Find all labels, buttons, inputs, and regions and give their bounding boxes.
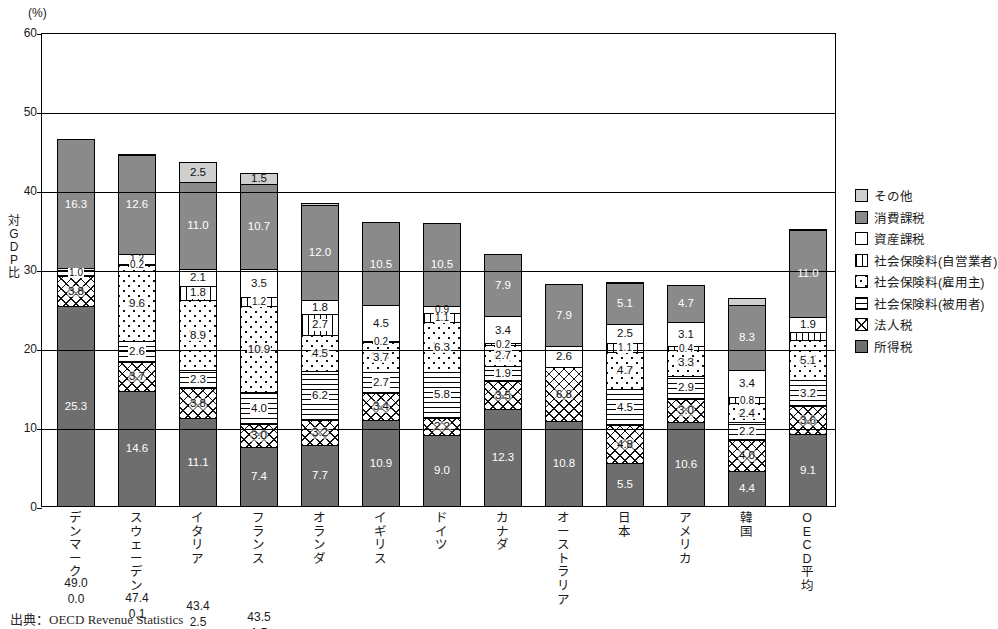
bar-segment-prop: 2.5 [607,324,643,344]
stacked-bar[interactable]: 8.33.40.82.42.24.04.4 [728,298,766,506]
bar-segment-prop: 1.9 [790,317,826,332]
bar-segment-value-label: 1.8 [311,302,329,314]
x-axis-category-char: 国 [736,526,756,540]
legend-item-corp[interactable]: 法人税 [855,314,995,336]
x-axis-category-char: ン [248,539,268,553]
x-axis-category-label: アメリカ [675,512,695,566]
x-axis-category-char: メ [675,526,695,540]
legend-item-income[interactable]: 所得税 [855,336,995,358]
bar-segment-income: 4.4 [729,471,765,506]
stacked-bar[interactable]: 4.73.10.43.32.93.010.6 [667,285,705,506]
bar-segment-corp: 2.2 [424,418,460,435]
stacked-bar[interactable]: 2.511.02.11.88.92.33.811.1 [179,162,217,506]
bar-segment-value-label: 3.1 [677,329,695,341]
x-axis-category-char: オ [309,512,329,526]
x-axis-category-char: イ [187,512,207,526]
stacked-bar[interactable]: 7.92.66.810.8 [545,284,583,506]
x-axis-category-char: ス [370,553,390,567]
legend-swatch-icon [855,211,868,224]
stacked-bar[interactable]: 10.54.50.23.72.73.410.9 [362,222,400,506]
y-axis-tick-label: 40 [11,184,37,198]
bar-segment-value-label: 3.8 [189,398,207,410]
x-axis-category-char: ダ [309,553,329,567]
x-axis-category-char: 日 [614,512,634,526]
bar-segment-value-label: 3.0 [250,430,268,442]
bar-segment-employee: 2.3 [180,370,216,388]
legend-item-other[interactable]: その他 [855,185,995,207]
bar-segment-selfemp [790,332,826,340]
bar-segment-consum: 7.9 [546,284,582,346]
x-axis-category-label: デンマーク [65,512,85,580]
bar-segment-other: 1.5 [241,173,277,185]
bar-segment-value-label: 4.4 [738,483,756,495]
bar-segment-value-label: 11.0 [796,268,820,280]
bar-segment-value-label: 9.0 [433,465,451,477]
x-axis-category-label: フランス [248,512,268,566]
x-axis-category-char: タ [187,526,207,540]
bar-segment-value-label: 11.1 [186,457,210,469]
bar-segment-value-label: 0.8 [739,396,755,406]
x-axis-category-char: ラ [248,526,268,540]
legend-item-selfemp[interactable]: 社会保険料(自営業者) [855,250,995,272]
stacked-bar[interactable]: 1.510.73.51.210.94.03.07.4 [240,173,278,506]
bar-segment-value-label: 10.5 [430,259,454,271]
bar-segment-value-label: 10.8 [552,458,576,470]
bar-segment-value-label: 8.9 [189,330,207,342]
legend-item-prop[interactable]: 資産課税 [855,228,995,250]
bar-segment-income: 5.5 [607,463,643,506]
x-axis-category-char: リ [553,580,573,594]
bar-segment-value-label: 4.5 [616,402,634,414]
x-axis-category-char: ウ [126,526,146,540]
x-axis-category-char: ア [553,594,573,608]
stacked-bar[interactable]: 12.01.82.74.56.23.27.7 [301,203,339,506]
x-axis-category-char: ラ [309,526,329,540]
x-axis-category-char: 平 [797,566,817,580]
bar-segment-value-label: 0.2 [373,337,389,347]
bar-segment-value-label: 8.3 [738,332,756,344]
x-axis-category-char: ラ [553,566,573,580]
bar-segment-other: 2.5 [180,162,216,182]
source-note: 出典：OECD Revenue Statistics [10,609,183,628]
legend-item-consum[interactable]: 消費課税 [855,207,995,229]
x-axis-category-char: C [797,539,817,553]
stacked-bar[interactable]: 12.61.20.29.62.63.714.6 [118,154,156,506]
x-axis-category-char: ー [553,526,573,540]
legend-item-employee[interactable]: 社会保険料(被用者) [855,293,995,315]
legend-swatch-icon [855,189,868,202]
legend-item-label: 社会保険料(雇用主) [874,272,984,291]
bar-segment-consum: 5.1 [607,283,643,323]
legend-item-label: 資産課税 [874,229,925,248]
stacked-bar[interactable]: 5.12.51.14.74.54.85.5 [606,282,644,506]
bar-segment-employee: 5.8 [424,372,460,418]
bar-segment-value-label: 7.7 [311,470,329,482]
y-axis-unit-label: (%) [28,6,47,20]
stacked-bar[interactable]: 10.50.91.16.35.82.29.0 [423,223,461,506]
x-axis-category-char: ス [248,553,268,567]
bar-segment-value-label: 2.2 [433,421,451,433]
x-axis-category-char: ア [187,553,207,567]
legend-item-employer[interactable]: 社会保険料(雇用主) [855,271,995,293]
x-axis-category-char: ツ [431,539,451,553]
bar-segment-value-label: 2.3 [189,374,207,386]
bar-segment-corp: 4.0 [729,440,765,472]
bar-segment-employer: 6.3 [424,322,460,372]
bar-segment-value-label: 3.2 [799,388,817,400]
x-axis-category-char: ス [553,539,573,553]
bar-segment-value-label: 5.1 [616,298,634,310]
x-axis-category-label: オランダ [309,512,329,566]
bar-segment-value-label: 3.0 [677,405,695,417]
stacked-bar[interactable]: 7.93.40.22.71.93.512.3 [484,254,522,506]
bar-segment-employee: 2.9 [668,376,704,399]
bar-segment-consum: 11.0 [790,230,826,317]
bar-segment-employee: 4.5 [607,389,643,425]
gridline [42,113,835,114]
stacked-bar[interactable]: 16.31.03.825.3 [57,139,95,506]
bar-segment-value-label: 1.1 [617,343,633,353]
x-axis-category-char: 本 [614,526,634,540]
bar-segment-value-label: 25.3 [64,401,88,413]
x-axis-category-label: ドイツ [431,512,451,553]
bar-segment-value-label: 4.0 [250,403,268,415]
legend-swatch-icon [855,254,868,267]
legend-swatch-icon [855,275,868,288]
bar-segment-value-label: 2.4 [738,408,756,420]
